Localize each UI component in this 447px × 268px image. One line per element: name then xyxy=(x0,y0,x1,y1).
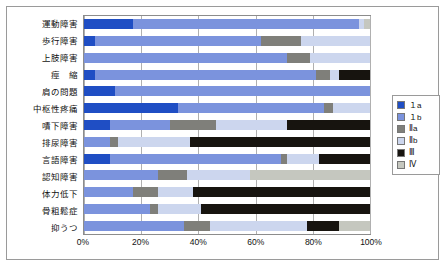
y-label: 抑うつ xyxy=(15,218,81,235)
segment-2b[interactable] xyxy=(187,170,250,180)
segment-2b[interactable] xyxy=(216,120,288,130)
segment-1a[interactable] xyxy=(84,120,110,130)
segment-3[interactable] xyxy=(307,221,338,231)
legend-swatch xyxy=(397,101,405,109)
legend-label: １a xyxy=(409,99,421,110)
stacked-bar[interactable] xyxy=(84,204,370,214)
segment-2a[interactable] xyxy=(316,70,330,80)
bar-row[interactable] xyxy=(84,83,370,100)
stacked-bar[interactable] xyxy=(84,70,370,80)
legend-item[interactable]: Ⅱb xyxy=(397,135,436,146)
x-tick-label: 60% xyxy=(247,237,264,247)
bar-row[interactable] xyxy=(84,217,370,234)
segment-4[interactable] xyxy=(364,19,370,29)
bar-row[interactable] xyxy=(84,33,370,50)
y-label: 肩の問題 xyxy=(15,83,81,100)
bar-row[interactable] xyxy=(84,184,370,201)
y-label: 歩行障害 xyxy=(15,32,81,49)
segment-2a[interactable] xyxy=(184,221,210,231)
segment-1b[interactable] xyxy=(95,70,315,80)
segment-2b[interactable] xyxy=(118,137,190,147)
legend-item[interactable]: Ⅲ xyxy=(397,147,436,158)
stacked-bar[interactable] xyxy=(84,170,370,180)
stacked-bar[interactable] xyxy=(84,221,370,231)
segment-3[interactable] xyxy=(193,187,370,197)
segment-1b[interactable] xyxy=(110,120,170,130)
segment-1b[interactable] xyxy=(84,221,184,231)
legend-item[interactable]: １b xyxy=(397,111,436,122)
bar-row[interactable] xyxy=(84,133,370,150)
segment-1b[interactable] xyxy=(84,204,150,214)
segment-2a[interactable] xyxy=(150,204,159,214)
segment-2b[interactable] xyxy=(158,204,201,214)
segment-3[interactable] xyxy=(287,120,370,130)
segment-1a[interactable] xyxy=(84,19,133,29)
bar-row[interactable] xyxy=(84,50,370,67)
segment-1a[interactable] xyxy=(84,154,110,164)
legend-label: １b xyxy=(409,111,421,122)
segment-2a[interactable] xyxy=(170,120,216,130)
bar-row[interactable] xyxy=(84,117,370,134)
bar-row[interactable] xyxy=(84,167,370,184)
stacked-bar[interactable] xyxy=(84,36,370,46)
segment-3[interactable] xyxy=(201,204,370,214)
segment-1b[interactable] xyxy=(84,53,287,63)
x-tick-label: 100% xyxy=(360,237,382,247)
chart-frame: 運動障害 歩行障害 上肢障害 痙 縮 肩の問題 中枢性疼痛 嘖下障害 排尿障害 … xyxy=(6,6,439,260)
bar-row[interactable] xyxy=(84,150,370,167)
segment-3[interactable] xyxy=(339,70,370,80)
y-label: 嘖下障害 xyxy=(15,117,81,134)
y-label: 排尿障害 xyxy=(15,133,81,150)
segment-1b[interactable] xyxy=(84,187,133,197)
segment-4[interactable] xyxy=(339,221,370,231)
legend-item[interactable]: １a xyxy=(397,99,436,110)
segment-2b[interactable] xyxy=(333,103,370,113)
segment-1b[interactable] xyxy=(95,36,261,46)
segment-1a[interactable] xyxy=(84,70,95,80)
segment-2a[interactable] xyxy=(261,36,301,46)
segment-1b[interactable] xyxy=(115,86,370,96)
stacked-bar[interactable] xyxy=(84,137,370,147)
segment-1a[interactable] xyxy=(84,36,95,46)
bar-row[interactable] xyxy=(84,66,370,83)
segment-2a[interactable] xyxy=(287,53,310,63)
legend-item[interactable]: Ⅱa xyxy=(397,123,436,134)
stacked-bar[interactable] xyxy=(84,103,370,113)
segment-2a[interactable] xyxy=(158,170,187,180)
plot-area xyxy=(83,15,371,235)
segment-1b[interactable] xyxy=(110,154,282,164)
segment-2a[interactable] xyxy=(110,137,119,147)
bar-row[interactable] xyxy=(84,200,370,217)
legend-swatch xyxy=(397,125,405,133)
stacked-bar[interactable] xyxy=(84,154,370,164)
segment-2b[interactable] xyxy=(158,187,192,197)
segment-2a[interactable] xyxy=(133,187,159,197)
segment-1a[interactable] xyxy=(84,86,115,96)
legend-item[interactable]: Ⅳ xyxy=(397,159,436,170)
legend-label: Ⅱb xyxy=(409,136,417,145)
stacked-bar[interactable] xyxy=(84,86,370,96)
y-axis-category-labels: 運動障害 歩行障害 上肢障害 痙 縮 肩の問題 中枢性疼痛 嘖下障害 排尿障害 … xyxy=(15,15,81,235)
bar-row[interactable] xyxy=(84,16,370,33)
y-label: 運動障害 xyxy=(15,15,81,32)
stacked-bar[interactable] xyxy=(84,187,370,197)
segment-1b[interactable] xyxy=(84,137,110,147)
stacked-bar[interactable] xyxy=(84,120,370,130)
stacked-bar[interactable] xyxy=(84,19,370,29)
segment-2b[interactable] xyxy=(210,221,307,231)
segment-2b[interactable] xyxy=(301,36,370,46)
segment-2b[interactable] xyxy=(310,53,370,63)
segment-3[interactable] xyxy=(319,154,370,164)
segment-2a[interactable] xyxy=(324,103,333,113)
segment-2b[interactable] xyxy=(287,154,318,164)
bar-row[interactable] xyxy=(84,100,370,117)
segment-2b[interactable] xyxy=(330,70,339,80)
segment-1b[interactable] xyxy=(133,19,359,29)
segment-1b[interactable] xyxy=(84,170,158,180)
stacked-bar[interactable] xyxy=(84,53,370,63)
x-tick-label: 20% xyxy=(132,237,149,247)
segment-3[interactable] xyxy=(190,137,370,147)
segment-1a[interactable] xyxy=(84,103,178,113)
segment-1b[interactable] xyxy=(178,103,324,113)
segment-4[interactable] xyxy=(250,170,370,180)
